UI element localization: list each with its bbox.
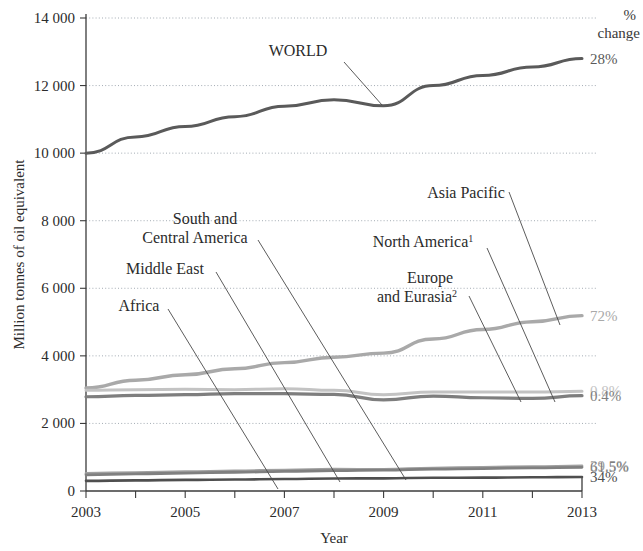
x-tick-label: 2005 bbox=[170, 504, 200, 520]
series-line bbox=[86, 394, 582, 400]
y-tick-label: 8 000 bbox=[41, 213, 75, 229]
percent-change-label: 34% bbox=[590, 469, 618, 485]
leader-line bbox=[258, 240, 406, 480]
y-tick-label: 12 000 bbox=[34, 78, 75, 94]
series-annotation-label: Middle East bbox=[126, 260, 204, 277]
series-annotation-label: South and bbox=[173, 210, 237, 227]
y-tick-label: 0 bbox=[68, 483, 76, 499]
percent-change-label: 28% bbox=[590, 51, 618, 67]
series-annotation-label: WORLD bbox=[269, 42, 328, 59]
x-axis-title: Year bbox=[320, 530, 348, 546]
series-annotation-label: North America1 bbox=[373, 233, 474, 251]
y-axis-title: Million tonnes of oil equivalent bbox=[11, 159, 27, 350]
leader-line bbox=[216, 272, 340, 482]
x-tick-marks bbox=[86, 491, 582, 498]
percent-change-header-line1: % bbox=[624, 7, 637, 23]
x-tick-labels: 200320052007200920112013 bbox=[71, 504, 597, 520]
leader-line bbox=[487, 248, 555, 402]
percent-change-header-line2: change bbox=[598, 25, 641, 41]
x-tick-label: 2007 bbox=[269, 504, 300, 520]
x-tick-label: 2009 bbox=[369, 504, 399, 520]
leader-line bbox=[509, 192, 560, 325]
y-tick-label: 10 000 bbox=[34, 145, 75, 161]
leader-line bbox=[168, 309, 278, 489]
y-tick-label: 6 000 bbox=[41, 280, 75, 296]
series-line bbox=[86, 316, 582, 388]
x-tick-label: 2011 bbox=[468, 504, 497, 520]
series-annotation-label: Asia Pacific bbox=[427, 184, 505, 201]
leader-line bbox=[344, 62, 382, 105]
annotation-leader-lines bbox=[168, 62, 560, 489]
percent-change-labels: 28%72%0.8%0.4%39.5%61.5%34%%change bbox=[590, 7, 640, 485]
y-tick-label: 2 000 bbox=[41, 415, 75, 431]
leader-line bbox=[469, 296, 521, 402]
y-tick-label: 14 000 bbox=[34, 10, 75, 26]
series-annotation-label: and Eurasia2 bbox=[377, 288, 457, 306]
series-annotation-label: Africa bbox=[119, 297, 160, 314]
y-tick-label: 4 000 bbox=[41, 348, 75, 364]
x-tick-label: 2013 bbox=[567, 504, 597, 520]
series-annotation-label: Central America bbox=[142, 229, 247, 246]
series-line bbox=[86, 477, 582, 481]
series-annotation-label: Europe bbox=[407, 269, 453, 287]
series-line bbox=[86, 59, 582, 154]
percent-change-label: 72% bbox=[590, 308, 618, 324]
percent-change-label: 0.4% bbox=[590, 388, 621, 404]
chart-canvas: 02 0004 0006 0008 00010 00012 00014 000 … bbox=[0, 0, 643, 551]
y-tick-marks bbox=[80, 18, 86, 491]
line-chart: 02 0004 0006 0008 00010 00012 00014 000 … bbox=[0, 0, 643, 551]
y-tick-labels: 02 0004 0006 0008 00010 00012 00014 000 bbox=[34, 10, 75, 499]
x-tick-label: 2003 bbox=[71, 504, 101, 520]
gridlines-group bbox=[86, 18, 596, 423]
